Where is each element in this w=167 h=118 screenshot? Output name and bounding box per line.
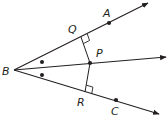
segment-PR: [85, 63, 90, 92]
angle-mark-dot-upper: [40, 60, 44, 64]
label-R: R: [77, 96, 85, 109]
label-A: A: [102, 7, 111, 20]
point-A: [107, 21, 111, 25]
label-C: C: [111, 105, 119, 118]
angle-bisector-diagram: B A P C Q R: [0, 0, 167, 118]
point-P: [88, 61, 92, 65]
label-Q: Q: [68, 23, 77, 36]
point-C: [114, 98, 118, 102]
label-B: B: [2, 65, 10, 78]
angle-mark-dot-lower: [40, 73, 44, 77]
ray-BC: [14, 70, 159, 114]
label-P: P: [96, 47, 103, 60]
